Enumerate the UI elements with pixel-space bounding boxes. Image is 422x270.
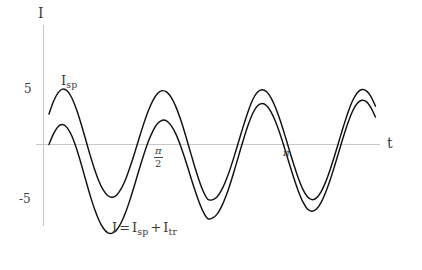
- curve-i-total: [49, 100, 376, 233]
- eq-equals: =: [117, 220, 132, 235]
- pi-over-2-denominator: 2: [153, 158, 164, 170]
- i-sp-subscript: sp: [66, 79, 77, 90]
- pi-over-2-numerator: π: [153, 146, 164, 157]
- chart-figure: I t 5 -5 π 2 π Isp I=Isp+Itr: [0, 0, 422, 270]
- annotation-i-sp: Isp: [61, 74, 77, 89]
- y-tick-label-minus-5: -5: [19, 193, 31, 205]
- annotation-i-total: I=Isp+Itr: [112, 221, 177, 236]
- eq-plus: +: [148, 220, 163, 235]
- x-axis-label: t: [387, 136, 393, 150]
- eq-sp-subscript: sp: [137, 226, 148, 237]
- eq-tr-subscript: tr: [168, 226, 177, 237]
- y-axis-label: I: [38, 6, 44, 20]
- x-tick-label-pi-over-2: π 2: [153, 146, 164, 169]
- plot-canvas: [0, 0, 422, 270]
- x-tick-label-pi: π: [283, 148, 290, 158]
- y-tick-label-5: 5: [24, 83, 32, 95]
